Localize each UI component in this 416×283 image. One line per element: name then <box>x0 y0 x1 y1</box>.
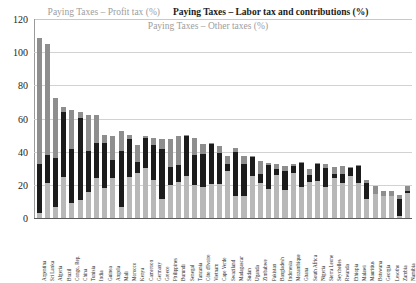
y-axis-labels: 020406080100120 <box>0 0 30 283</box>
x-axis-tick-label: Mozambique <box>295 254 301 281</box>
bar-segment-labor-tax <box>266 165 271 189</box>
bar-segment-profit-tax <box>274 175 279 218</box>
bar-segment-profit-tax <box>86 192 91 218</box>
x-axis-tick-label: Sudan <box>246 268 252 281</box>
bar-segment-profit-tax <box>299 187 304 218</box>
bar-segment-labor-tax <box>348 167 353 175</box>
bar-segment-profit-tax <box>373 194 378 218</box>
bar-segment-other-taxes <box>69 110 74 149</box>
bar-segment-profit-tax <box>37 213 42 218</box>
x-axis-tick-label: Guinea <box>107 266 113 281</box>
bar-series-area <box>35 19 412 218</box>
bar-segment-other-taxes <box>176 136 181 165</box>
bar <box>340 19 345 218</box>
bar-segment-other-taxes <box>356 165 361 166</box>
bar <box>159 19 164 218</box>
x-axis-tick-label: Cape Verde <box>221 257 227 281</box>
x-axis-tick-label: Morocco <box>131 263 137 281</box>
bar <box>127 19 132 218</box>
bar-segment-labor-tax <box>364 183 369 199</box>
bar-segment-labor-tax <box>299 163 304 187</box>
bar <box>307 19 312 218</box>
bar-segment-labor-tax <box>176 165 181 182</box>
x-axis-tick-label: Ethiopia <box>353 264 359 281</box>
bar-segment-labor-tax <box>102 143 107 188</box>
bar-segment-labor-tax <box>168 167 173 185</box>
bar-segment-profit-tax <box>69 203 74 218</box>
bar-segment-profit-tax <box>110 178 115 218</box>
bar-segment-other-taxes <box>225 156 230 164</box>
bar-segment-other-taxes <box>94 115 99 143</box>
bar-segment-other-taxes <box>315 163 320 164</box>
bar <box>217 19 222 218</box>
x-axis-tick-label: Indonesia <box>287 261 293 281</box>
x-axis-tick-label: Uganda <box>254 265 260 281</box>
bar <box>356 19 361 218</box>
bar <box>45 19 50 218</box>
x-axis-tick-label: Malawi <box>361 265 367 281</box>
bar-segment-labor-tax <box>233 152 238 196</box>
bar <box>209 19 214 218</box>
bar-segment-labor-tax <box>217 153 222 184</box>
bar-segment-other-taxes <box>119 131 124 151</box>
bar-segment-other-taxes <box>405 186 410 192</box>
bar-segment-other-taxes <box>373 186 378 194</box>
bar-segment-labor-tax <box>258 174 263 183</box>
bar <box>332 19 337 218</box>
bar-segment-labor-tax <box>151 145 156 180</box>
bar <box>61 19 66 218</box>
bar-segment-other-taxes <box>332 167 337 174</box>
bar-segment-profit-tax <box>241 196 246 218</box>
bar-segment-labor-tax <box>37 164 42 213</box>
bar-segment-profit-tax <box>159 199 164 218</box>
bar <box>151 19 156 218</box>
x-axis-tick-label: South Africa <box>312 255 318 281</box>
bar <box>200 19 205 218</box>
bar <box>192 19 197 218</box>
bar-segment-profit-tax <box>364 199 369 218</box>
x-axis-tick-label: Zimbabwe <box>262 259 268 281</box>
bar-segment-profit-tax <box>127 177 132 218</box>
bar-segment-other-taxes <box>299 162 304 163</box>
bar-segment-labor-tax <box>192 155 197 185</box>
x-axis-tick-label: Swaziland <box>230 260 236 281</box>
bar-segment-labor-tax <box>110 160 115 178</box>
bar <box>364 19 369 218</box>
bar <box>143 19 148 218</box>
bar-segment-other-taxes <box>159 139 164 149</box>
x-axis-tick-label: Burundi <box>180 264 186 281</box>
x-axis-tick-label: Congo, Rep. <box>74 255 80 281</box>
x-axis-tick-label: Tanzania <box>197 263 203 281</box>
bar-segment-other-taxes <box>61 107 66 112</box>
bar-segment-labor-tax <box>315 163 320 181</box>
x-axis-tick-label: Georgia <box>385 265 391 281</box>
bar <box>225 19 230 218</box>
bar-segment-labor-tax <box>86 151 91 193</box>
bar-segment-other-taxes <box>307 169 312 176</box>
bar-segment-other-taxes <box>135 145 140 162</box>
bar-segment-other-taxes <box>274 164 279 168</box>
bar <box>348 19 353 218</box>
y-axis-tick-label: 100 <box>0 47 28 58</box>
bar-segment-profit-tax <box>307 182 312 218</box>
bar <box>119 19 124 218</box>
bar-segment-other-taxes <box>110 136 115 160</box>
bar-segment-other-taxes <box>381 191 386 196</box>
bar <box>37 19 42 218</box>
bar <box>184 19 189 218</box>
bar-segment-other-taxes <box>200 144 205 154</box>
bar-segment-other-taxes <box>258 161 263 174</box>
x-axis-tick-label: China <box>82 269 88 281</box>
bar <box>241 19 246 218</box>
legend-item-labor-tax: Paying Taxes – Labor tax and contributio… <box>173 6 368 18</box>
bar-segment-other-taxes <box>151 138 156 144</box>
bar-segment-labor-tax <box>78 118 83 200</box>
bar-segment-labor-tax <box>241 164 246 196</box>
bar <box>282 19 287 218</box>
bar-segment-profit-tax <box>135 173 140 218</box>
x-axis-labels: ArgentinaSri LankaAlgeriaBrazilCongo, Re… <box>35 219 412 283</box>
bar-segment-labor-tax <box>45 155 50 183</box>
bar-segment-labor-tax <box>405 191 410 193</box>
x-axis-tick-label: Madagascar <box>238 256 244 281</box>
x-axis-tick-label: Botswana <box>377 261 383 281</box>
